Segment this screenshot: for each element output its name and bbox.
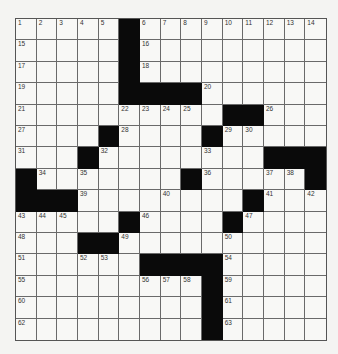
grid-cell[interactable]: 40 (161, 190, 182, 211)
grid-cell[interactable] (243, 147, 264, 168)
grid-cell[interactable]: 27 (16, 126, 37, 147)
grid-cell[interactable] (202, 40, 223, 61)
grid-cell[interactable] (119, 147, 140, 168)
grid-cell[interactable] (99, 105, 120, 126)
grid-cell[interactable] (305, 105, 326, 126)
grid-cell[interactable]: 51 (16, 254, 37, 275)
grid-cell[interactable] (57, 147, 78, 168)
grid-cell[interactable]: 26 (264, 105, 285, 126)
grid-cell[interactable] (57, 40, 78, 61)
grid-cell[interactable] (57, 233, 78, 254)
grid-cell[interactable] (264, 276, 285, 297)
grid-cell[interactable]: 4 (78, 19, 99, 40)
grid-cell[interactable] (37, 83, 58, 104)
grid-cell[interactable] (285, 83, 306, 104)
grid-cell[interactable]: 28 (119, 126, 140, 147)
grid-cell[interactable] (37, 276, 58, 297)
grid-cell[interactable] (285, 254, 306, 275)
grid-cell[interactable]: 47 (243, 212, 264, 233)
grid-cell[interactable] (140, 126, 161, 147)
grid-cell[interactable]: 55 (16, 276, 37, 297)
grid-cell[interactable] (99, 319, 120, 340)
grid-cell[interactable]: 36 (202, 169, 223, 190)
grid-cell[interactable] (37, 233, 58, 254)
grid-cell[interactable]: 31 (16, 147, 37, 168)
grid-cell[interactable] (243, 62, 264, 83)
grid-cell[interactable] (78, 276, 99, 297)
grid-cell[interactable] (202, 62, 223, 83)
grid-cell[interactable]: 3 (57, 19, 78, 40)
grid-cell[interactable]: 45 (57, 212, 78, 233)
grid-cell[interactable]: 20 (202, 83, 223, 104)
grid-cell[interactable]: 61 (223, 297, 244, 318)
grid-cell[interactable] (57, 83, 78, 104)
grid-cell[interactable] (202, 212, 223, 233)
grid-cell[interactable]: 14 (305, 19, 326, 40)
grid-cell[interactable] (285, 105, 306, 126)
grid-cell[interactable] (37, 254, 58, 275)
grid-cell[interactable] (223, 83, 244, 104)
grid-cell[interactable] (161, 319, 182, 340)
grid-cell[interactable]: 49 (119, 233, 140, 254)
grid-cell[interactable] (285, 276, 306, 297)
grid-cell[interactable] (37, 126, 58, 147)
grid-cell[interactable] (243, 233, 264, 254)
grid-cell[interactable]: 13 (285, 19, 306, 40)
grid-cell[interactable] (223, 40, 244, 61)
grid-cell[interactable]: 9 (202, 19, 223, 40)
grid-cell[interactable] (243, 276, 264, 297)
grid-cell[interactable] (140, 233, 161, 254)
grid-cell[interactable] (37, 147, 58, 168)
grid-cell[interactable] (305, 297, 326, 318)
grid-cell[interactable]: 17 (16, 62, 37, 83)
grid-cell[interactable] (37, 297, 58, 318)
grid-cell[interactable] (223, 169, 244, 190)
grid-cell[interactable]: 35 (78, 169, 99, 190)
grid-cell[interactable] (181, 40, 202, 61)
grid-cell[interactable]: 54 (223, 254, 244, 275)
grid-cell[interactable] (99, 169, 120, 190)
grid-cell[interactable]: 56 (140, 276, 161, 297)
grid-cell[interactable] (181, 147, 202, 168)
grid-cell[interactable] (305, 233, 326, 254)
grid-cell[interactable]: 58 (181, 276, 202, 297)
grid-cell[interactable] (99, 62, 120, 83)
grid-cell[interactable]: 22 (119, 105, 140, 126)
grid-cell[interactable] (181, 233, 202, 254)
grid-cell[interactable] (78, 319, 99, 340)
grid-cell[interactable]: 43 (16, 212, 37, 233)
grid-cell[interactable] (305, 62, 326, 83)
grid-cell[interactable] (99, 276, 120, 297)
grid-cell[interactable] (264, 212, 285, 233)
grid-cell[interactable] (285, 212, 306, 233)
grid-cell[interactable]: 16 (140, 40, 161, 61)
grid-cell[interactable] (181, 126, 202, 147)
grid-cell[interactable] (57, 276, 78, 297)
grid-cell[interactable] (181, 319, 202, 340)
grid-cell[interactable]: 10 (223, 19, 244, 40)
grid-cell[interactable] (37, 105, 58, 126)
grid-cell[interactable] (305, 212, 326, 233)
grid-cell[interactable] (78, 40, 99, 61)
grid-cell[interactable] (285, 297, 306, 318)
grid-cell[interactable] (264, 40, 285, 61)
grid-cell[interactable]: 63 (223, 319, 244, 340)
grid-cell[interactable]: 52 (78, 254, 99, 275)
grid-cell[interactable] (181, 62, 202, 83)
grid-cell[interactable]: 19 (16, 83, 37, 104)
grid-cell[interactable]: 18 (140, 62, 161, 83)
grid-cell[interactable] (243, 297, 264, 318)
grid-cell[interactable]: 2 (37, 19, 58, 40)
grid-cell[interactable] (37, 40, 58, 61)
grid-cell[interactable]: 12 (264, 19, 285, 40)
grid-cell[interactable] (305, 126, 326, 147)
grid-cell[interactable] (243, 319, 264, 340)
grid-cell[interactable] (161, 297, 182, 318)
grid-cell[interactable] (285, 62, 306, 83)
grid-cell[interactable] (140, 147, 161, 168)
grid-cell[interactable]: 21 (16, 105, 37, 126)
grid-cell[interactable] (243, 254, 264, 275)
grid-cell[interactable] (181, 190, 202, 211)
grid-cell[interactable] (243, 40, 264, 61)
grid-cell[interactable]: 15 (16, 40, 37, 61)
